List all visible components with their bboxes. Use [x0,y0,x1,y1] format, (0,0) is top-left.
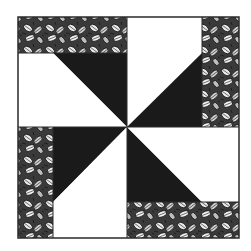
quilt-block [0,0,251,251]
leaf-strip-top [18,17,127,53]
quadrant-top-left [18,17,127,127]
quadrant-bottom-left [18,127,127,238]
leaf-strip-bottom [127,202,239,238]
leaf-strip-left [18,127,53,238]
quadrant-bottom-right [127,127,239,238]
leaf-strip-right [202,17,239,127]
quadrant-top-right [127,17,239,127]
